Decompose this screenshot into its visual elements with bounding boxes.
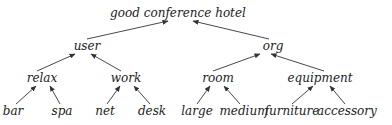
- edge-work-to-user: [91, 54, 121, 71]
- edge-org-to-root: [193, 21, 269, 39]
- edge-medium-to-room: [224, 86, 240, 104]
- node-net: net: [95, 104, 115, 118]
- edge-spa-to-relax: [50, 86, 60, 104]
- node-relax: relax: [27, 71, 58, 85]
- edge-net-to-work: [107, 86, 120, 104]
- node-root: good conference hotel: [110, 6, 246, 20]
- edge-accessory-to-equipment: [330, 86, 345, 104]
- edge-user-to-root: [87, 21, 168, 39]
- tree-diagram-svg: good conference hoteluserorgrelaxworkroo…: [0, 0, 392, 125]
- tree-diagram: good conference hoteluserorgrelaxworkroo…: [0, 0, 392, 125]
- edge-desk-to-work: [134, 86, 150, 104]
- edge-large-to-room: [197, 86, 210, 104]
- node-large: large: [181, 104, 213, 118]
- node-accessory: accessory: [317, 104, 377, 118]
- edge-furniture-to-equipment: [292, 86, 313, 104]
- node-equipment: equipment: [287, 71, 352, 85]
- edge-room-to-org: [213, 54, 260, 71]
- node-user: user: [74, 39, 102, 53]
- node-work: work: [111, 71, 142, 85]
- node-furniture: furniture: [264, 104, 320, 118]
- node-desk: desk: [138, 104, 166, 118]
- node-bar: bar: [3, 104, 25, 118]
- node-spa: spa: [52, 104, 73, 118]
- edge-relax-to-user: [37, 54, 75, 71]
- edge-equipment-to-org: [271, 54, 324, 71]
- node-org: org: [263, 39, 284, 53]
- node-room: room: [202, 71, 234, 85]
- edge-bar-to-relax: [16, 86, 36, 104]
- edges-layer: [16, 21, 345, 104]
- node-medium: medium: [219, 104, 268, 118]
